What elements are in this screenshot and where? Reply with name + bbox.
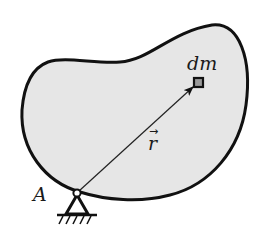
rigid-body-diagram: A dm r →: [0, 0, 268, 244]
pivot-label: A: [31, 183, 47, 205]
mass-element-label: dm: [187, 52, 217, 74]
pin-support-triangle: [66, 195, 88, 214]
vector-arrow-accent: →: [149, 125, 158, 138]
mass-element-dm: [194, 78, 203, 87]
pivot-pin-A: [73, 189, 80, 196]
ground-hatching: [59, 216, 91, 224]
